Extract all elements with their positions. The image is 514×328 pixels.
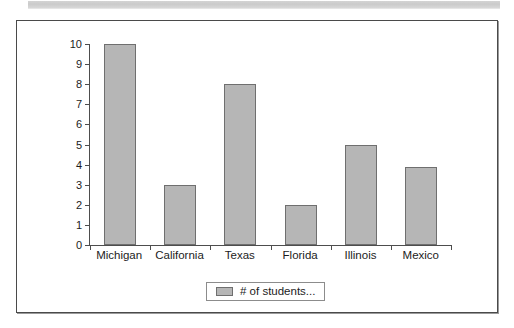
y-axis-tick-label: 7 bbox=[76, 99, 82, 110]
bar-slot bbox=[210, 44, 270, 245]
y-axis-tick-label: 6 bbox=[76, 119, 82, 130]
chart-legend: # of students... bbox=[206, 282, 325, 301]
x-axis-label-texas: Texas bbox=[210, 250, 270, 262]
bar-mexico[interactable] bbox=[405, 167, 437, 245]
bar-florida[interactable] bbox=[285, 205, 317, 245]
y-axis-tick-label: 5 bbox=[76, 139, 82, 150]
bar-california[interactable] bbox=[164, 185, 196, 245]
y-axis-tick-label: 9 bbox=[76, 59, 82, 70]
plot-wrapper: 109876543210 bbox=[89, 44, 451, 246]
x-axis-label-michigan: Michigan bbox=[89, 250, 149, 262]
x-axis-label-mexico: Mexico bbox=[391, 250, 451, 262]
bar-slot bbox=[391, 44, 451, 245]
y-axis-tick bbox=[85, 165, 90, 166]
y-axis-tick bbox=[85, 124, 90, 125]
y-axis-tick bbox=[85, 225, 90, 226]
legend-label: # of students... bbox=[240, 286, 315, 298]
y-axis-tick bbox=[85, 64, 90, 65]
y-axis-tick-label: 3 bbox=[76, 179, 82, 190]
x-axis-label-florida: Florida bbox=[270, 250, 330, 262]
x-axis-label-illinois: Illinois bbox=[330, 250, 390, 262]
y-axis-tick bbox=[85, 44, 90, 45]
y-axis-tick bbox=[85, 145, 90, 146]
bar-slot bbox=[90, 44, 150, 245]
y-axis-tick bbox=[85, 185, 90, 186]
y-axis-tick bbox=[85, 84, 90, 85]
bar-michigan[interactable] bbox=[104, 44, 136, 245]
y-axis-tick bbox=[85, 104, 90, 105]
legend-swatch-icon bbox=[216, 287, 233, 296]
x-axis-label-california: California bbox=[149, 250, 209, 262]
x-axis-labels: MichiganCaliforniaTexasFloridaIllinoisMe… bbox=[89, 250, 451, 262]
y-axis-tick-label: 10 bbox=[70, 39, 82, 50]
bar-slot bbox=[150, 44, 210, 245]
bar-slot bbox=[271, 44, 331, 245]
bar-texas[interactable] bbox=[224, 84, 256, 245]
bar-slot bbox=[331, 44, 391, 245]
y-axis-tick-label: 0 bbox=[76, 240, 82, 251]
y-axis-tick-label: 8 bbox=[76, 79, 82, 90]
y-axis-tick-label: 1 bbox=[76, 219, 82, 230]
bar-illinois[interactable] bbox=[345, 145, 377, 246]
scan-artifact-strip bbox=[28, 1, 500, 8]
x-axis-tick bbox=[451, 245, 452, 250]
bar-series bbox=[90, 44, 451, 245]
y-axis-tick-label: 4 bbox=[76, 159, 82, 170]
chart-frame: 109876543210 MichiganCaliforniaTexasFlor… bbox=[16, 20, 498, 313]
y-axis-tick-label: 2 bbox=[76, 199, 82, 210]
plot-area: 109876543210 bbox=[89, 44, 451, 246]
y-axis-tick bbox=[85, 205, 90, 206]
